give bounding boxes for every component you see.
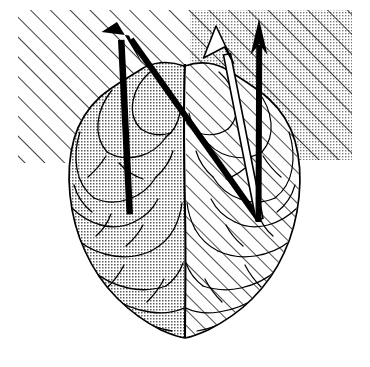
figure-canvas [0,0,370,367]
brain-arrow-diagram [0,0,370,367]
